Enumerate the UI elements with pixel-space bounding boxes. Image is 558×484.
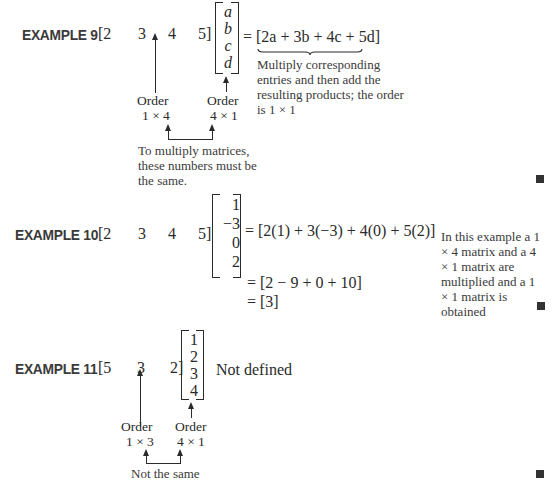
arrow-up-icon: [143, 449, 149, 456]
column-entry: 0: [216, 233, 240, 253]
order-right-dims: 4 × 1: [210, 108, 238, 124]
side-note: In this example a 1 × 4 matrix and a 4 ×…: [441, 229, 541, 319]
bottom-note: Not the same: [131, 466, 200, 481]
bottom-note: To multiply matrices, these numbers must…: [138, 143, 258, 188]
column-entry: d: [218, 53, 238, 73]
example-9-label: EXAMPLE 9: [22, 26, 98, 43]
row-entry: 3: [138, 25, 146, 43]
row-entry: [2: [98, 225, 111, 243]
connector-line: [146, 463, 181, 464]
arrow-up-icon: [209, 124, 215, 131]
column-entry: −3: [216, 214, 240, 234]
arrow-line: [155, 37, 156, 93]
result-line-3: = [3]: [247, 293, 279, 311]
order-right-title: Order: [175, 419, 206, 435]
order-left-dims: 1 × 4: [142, 108, 170, 124]
order-left-dims: 1 × 3: [126, 434, 154, 450]
row-entry: [2: [98, 25, 111, 43]
result-line-1: = [2(1) + 3(−3) + 4(0) + 5(2)]: [245, 222, 435, 240]
side-note: Multiply corresponding entries and then …: [257, 57, 407, 117]
column-entry: 4: [184, 381, 204, 401]
row-entry: 3: [138, 225, 146, 243]
column-entry: 2: [216, 252, 240, 272]
arrow-up-icon: [177, 449, 183, 456]
arrow-up-icon: [188, 402, 194, 409]
order-left-title: Order: [137, 93, 168, 109]
row-entry: 4: [168, 25, 176, 43]
order-right-dims: 4 × 1: [177, 434, 205, 450]
example-10-label: EXAMPLE 10: [15, 226, 98, 243]
row-entry: 5]: [198, 225, 211, 243]
row-entry: 4: [168, 225, 176, 243]
connector-line: [168, 139, 213, 140]
result-line-2: = [2 − 9 + 0 + 10]: [247, 274, 362, 292]
underbrace-icon: [257, 48, 363, 56]
arrow-up-icon: [223, 76, 229, 83]
end-of-example-marker: [537, 302, 545, 310]
row-entry: [5: [98, 359, 111, 377]
example-11-label: EXAMPLE 11: [15, 360, 97, 377]
arrow-up-icon: [152, 33, 158, 40]
order-left-title: Order: [121, 419, 152, 435]
arrow-up-icon: [165, 124, 171, 131]
column-entry: 1: [216, 195, 240, 215]
result-expression: = [2a + 3b + 4c + 5d]: [243, 28, 380, 46]
order-right-title: Order: [207, 93, 238, 109]
result-text: Not defined: [216, 361, 292, 379]
end-of-example-marker: [536, 175, 544, 183]
row-entry: 5]: [198, 25, 211, 43]
arrow-up-icon: [137, 369, 143, 376]
end-of-example-marker: [536, 470, 544, 478]
